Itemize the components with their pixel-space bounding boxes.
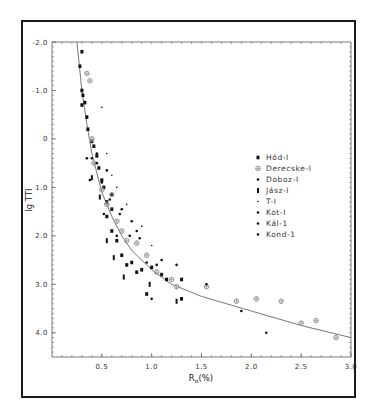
data-point [126, 204, 128, 206]
data-point [140, 268, 143, 272]
data-point [109, 198, 112, 201]
data-point [205, 283, 208, 286]
legend-marker-icon [257, 201, 259, 203]
data-point [135, 270, 138, 274]
legend-label: Kál-1 [266, 219, 288, 228]
y-tick-label: 0 [43, 135, 48, 143]
data-point [180, 297, 183, 301]
legend-item: Jász-I [257, 186, 289, 195]
data-point [86, 157, 89, 160]
data-point [176, 299, 178, 304]
legend: Hód-IDerecske-IDoboz-IJász-IT-IKot-IKál-… [256, 153, 312, 239]
data-point [149, 282, 151, 287]
legend-item: Derecske-I [256, 164, 312, 173]
data-point [138, 237, 141, 240]
data-point [150, 298, 153, 301]
data-point [118, 213, 121, 216]
data-point [103, 213, 106, 216]
data-point [91, 175, 93, 180]
series-j-sz-i [91, 175, 178, 304]
legend-item: Doboz-I [257, 175, 299, 184]
legend-label: Kond-1 [266, 230, 296, 239]
data-point [78, 64, 81, 68]
y-axis-title: lg TTI [24, 188, 34, 211]
data-point [110, 207, 113, 211]
series-kond-1 [89, 179, 208, 286]
legend-label: Jász-I [265, 186, 289, 195]
data-point [120, 253, 123, 257]
legend-label: T-I [265, 197, 277, 206]
data-point [105, 215, 108, 219]
data-point [111, 174, 113, 176]
data-point [125, 263, 128, 267]
y-tick-label: -2.0 [32, 39, 48, 47]
data-point [145, 261, 148, 264]
data-point [85, 115, 88, 119]
legend-item: Kot-I [257, 208, 286, 217]
data-point [116, 187, 118, 189]
legend-label: Kot-I [266, 208, 286, 217]
data-points [78, 50, 338, 340]
legend-marker-icon [257, 222, 260, 225]
data-point [106, 238, 108, 243]
data-point [120, 208, 123, 211]
x-axis-title: Ro(%) [189, 373, 213, 384]
data-point [96, 152, 99, 155]
data-point [80, 103, 83, 107]
series-h-d-i [78, 50, 183, 301]
x-axis-title-suffix: (%) [198, 373, 213, 383]
fit-curve [77, 42, 351, 338]
data-point [130, 220, 133, 223]
data-point [110, 229, 113, 233]
y-tick-label: 3.0 [35, 281, 48, 289]
data-point [81, 94, 84, 98]
legend-marker-icon [257, 188, 259, 193]
data-point [97, 166, 100, 170]
plot-axes: 0.51.01.52.02.53.0-2.0-1.001.02.03.04.0 [32, 39, 357, 372]
legend-item: Hód-I [257, 153, 289, 162]
y-tick-label: 2.0 [35, 232, 48, 240]
data-point [130, 261, 133, 265]
x-tick-label: 2.0 [245, 363, 258, 371]
x-tick-label: 2.5 [295, 363, 308, 371]
data-point [101, 181, 104, 184]
x-tick-label: 3.0 [345, 363, 358, 371]
y-tick-label: 1.0 [35, 184, 48, 192]
legend-marker-icon [257, 233, 260, 236]
scatter-chart: 0.51.01.52.02.53.0-2.0-1.001.02.03.04.0 … [0, 0, 372, 414]
data-point [165, 278, 168, 282]
y-tick-label: -1.0 [32, 87, 48, 95]
data-point [101, 107, 103, 109]
legend-marker-icon [257, 211, 260, 214]
data-point [150, 266, 153, 270]
data-point [128, 235, 131, 238]
x-tick-label: 1.5 [195, 363, 208, 371]
data-point [89, 179, 92, 182]
data-point [80, 50, 83, 54]
data-point [151, 245, 153, 247]
data-point [160, 273, 163, 277]
legend-item: Kál-1 [257, 219, 288, 228]
data-point [92, 144, 95, 148]
data-point [240, 310, 243, 313]
x-tick-label: 0.5 [96, 363, 109, 371]
data-point [115, 239, 118, 243]
data-point [106, 153, 108, 155]
series-k-l-1 [111, 193, 268, 334]
data-point [83, 101, 86, 105]
legend-marker-icon [257, 178, 260, 181]
legend-marker-icon [257, 156, 260, 160]
data-point [86, 127, 89, 131]
fit-curve-line [77, 42, 351, 338]
data-point [141, 225, 143, 227]
data-point [160, 259, 163, 262]
data-point [106, 169, 109, 172]
data-point [91, 157, 94, 160]
data-point [123, 275, 125, 280]
data-point [180, 278, 183, 282]
legend-label: Derecske-I [266, 164, 312, 173]
data-point [175, 264, 178, 267]
legend-label: Hód-I [266, 153, 289, 162]
data-point [99, 195, 101, 200]
legend-label: Doboz-I [266, 175, 299, 184]
